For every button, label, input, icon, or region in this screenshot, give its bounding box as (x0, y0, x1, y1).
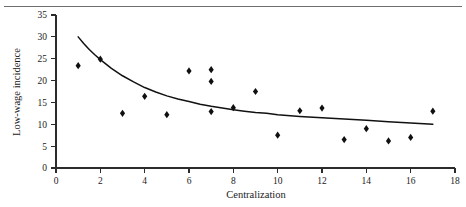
data-point-marker (209, 108, 214, 115)
data-point-marker (209, 78, 214, 85)
y-tick-label: 25 (38, 54, 48, 64)
fitted-trend-curve (78, 37, 433, 124)
x-tick-label: 12 (317, 176, 327, 186)
y-tick-label: 15 (38, 98, 48, 108)
data-point-marker (430, 108, 435, 115)
y-tick-label: 0 (42, 163, 47, 173)
x-axis-ticks: 024681012141618 (54, 168, 460, 186)
y-tick-label: 10 (38, 120, 48, 130)
data-point-marker (364, 125, 369, 132)
data-point-group (76, 56, 436, 145)
x-tick-label: 6 (187, 176, 192, 186)
x-tick-label: 8 (231, 176, 236, 186)
y-axis-ticks: 05101520253035 (38, 10, 57, 173)
x-tick-label: 14 (362, 176, 372, 186)
data-point-marker (275, 132, 280, 139)
x-tick-label: 10 (273, 176, 283, 186)
y-tick-label: 35 (38, 10, 48, 20)
data-point-marker (408, 134, 413, 141)
x-tick-label: 0 (54, 176, 59, 186)
data-point-marker (253, 88, 258, 95)
data-point-marker (386, 137, 391, 144)
x-tick-label: 2 (98, 176, 103, 186)
x-axis-title: Centralization (226, 189, 286, 200)
data-point-marker (209, 66, 214, 73)
y-tick-label: 5 (42, 142, 47, 152)
data-point-marker (76, 62, 81, 69)
data-point-marker (164, 111, 169, 118)
data-point-marker (142, 93, 147, 100)
x-tick-label: 18 (450, 176, 460, 186)
chart-figure: 05101520253035 024681012141618 Low-wage … (0, 0, 466, 207)
data-point-marker (186, 67, 191, 74)
x-tick-label: 4 (142, 176, 147, 186)
data-point-marker (297, 107, 302, 114)
x-tick-label: 16 (406, 176, 416, 186)
y-tick-label: 20 (38, 76, 48, 86)
y-tick-label: 30 (38, 32, 48, 42)
data-point-marker (342, 136, 347, 143)
data-point-marker (319, 105, 324, 112)
y-axis-title: Low-wage incidence (11, 48, 22, 136)
data-point-marker (120, 110, 125, 117)
scatter-plot: 05101520253035 024681012141618 Low-wage … (0, 0, 466, 207)
